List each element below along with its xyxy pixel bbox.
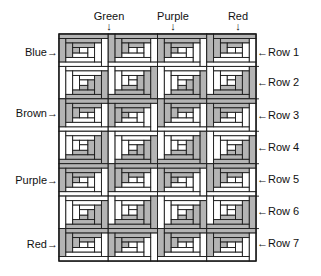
left-arrow-icon: ← [257,237,268,249]
left-arrow-icon: ← [257,46,268,58]
label-text: Red [27,238,47,250]
quilt-block [59,196,108,228]
left-arrow-icon: ← [257,109,268,121]
right-arrow-icon: → [47,107,58,119]
label-text: Row 7 [268,237,299,249]
quilt-block [207,34,256,66]
right-arrow-icon: → [47,46,58,58]
row-label-2: ←Row 2 [257,76,321,88]
quilt-block [207,131,256,163]
left-label-blue: Blue→ [0,46,58,58]
left-arrow-icon: ← [257,76,268,88]
quilt-block [158,164,207,196]
label-text: Row 2 [268,76,299,88]
quilt-block [158,99,207,131]
quilt-block [108,196,157,228]
top-label-purple: Purple ↓ [143,10,203,31]
quilt-block [158,131,207,163]
down-arrow-icon: ↓ [79,22,139,31]
row-label-3: ←Row 3 [257,109,321,121]
left-label-red: Red→ [0,238,58,250]
row-label-4: ←Row 4 [257,141,321,153]
label-text: Row 1 [268,46,299,58]
down-arrow-icon: ↓ [208,22,268,31]
quilt-block [207,196,256,228]
right-arrow-icon: → [47,174,58,186]
row-label-1: ←Row 1 [257,46,321,58]
row-label-7: ←Row 7 [257,237,321,249]
label-text: Row 4 [268,141,299,153]
quilt-block [108,99,157,131]
quilt-block [59,66,108,98]
quilt-block [158,196,207,228]
quilt-block [108,66,157,98]
quilt-block [59,131,108,163]
quilt-diagram [0,0,321,276]
right-arrow-icon: → [47,238,58,250]
quilt-block [108,229,157,261]
row-label-5: ←Row 5 [257,173,321,185]
top-label-red: Red ↓ [208,10,268,31]
left-arrow-icon: ← [257,141,268,153]
quilt-block [108,34,157,66]
quilt-block [207,164,256,196]
label-text: Row 5 [268,173,299,185]
quilt-block [59,164,108,196]
quilt-block [158,34,207,66]
quilt-block [207,99,256,131]
quilt-block [108,164,157,196]
label-text: Purple [15,174,47,186]
left-arrow-icon: ← [257,173,268,185]
quilt-block [59,99,108,131]
top-label-green: Green ↓ [79,10,139,31]
label-text: Row 6 [268,205,299,217]
left-arrow-icon: ← [257,205,268,217]
down-arrow-icon: ↓ [143,22,203,31]
quilt-block [207,229,256,261]
left-label-brown: Brown→ [0,107,58,119]
quilt-block [158,66,207,98]
left-label-purple: Purple→ [0,174,58,186]
quilt-blocks [59,34,259,261]
quilt-block [158,229,207,261]
label-text: Blue [25,46,47,58]
quilt-block [59,34,108,66]
label-text: Brown [16,107,47,119]
quilt-block [207,66,256,98]
row-label-6: ←Row 6 [257,205,321,217]
quilt-block [108,131,157,163]
quilt-block [59,229,108,261]
label-text: Row 3 [268,109,299,121]
